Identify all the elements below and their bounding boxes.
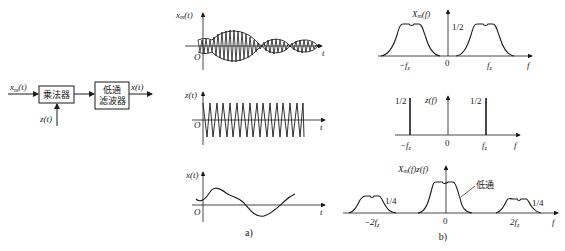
tick-zero: 0 (443, 216, 448, 226)
tick-neg-fz: −fz (399, 60, 411, 71)
caption-b: b) (439, 231, 447, 243)
multiplier-label: 乘法器 (43, 89, 70, 100)
x-label: t (322, 48, 325, 58)
output-label: x(t) (130, 82, 144, 92)
tick-neg-2fz: −2fz (364, 217, 380, 228)
caption-a: a) (245, 227, 253, 239)
plot-z-f: z(f) 1/2 1/2 −fz 0 fz f (395, 95, 520, 151)
y-label: xm(t) (175, 10, 193, 20)
x-label: f (514, 140, 518, 150)
tick-neg-fz: −fz (400, 140, 412, 151)
origin-label: O (194, 52, 201, 62)
y-label: z(t) (184, 90, 197, 100)
impulse-left-label: 1/2 (395, 96, 407, 106)
side-level-right: 1/4 (532, 198, 544, 208)
plot-xm-t: xm(t) O t (175, 10, 325, 70)
carrier-label: z(t) (39, 114, 52, 124)
y-label: z(f) (424, 95, 437, 105)
filter-label-line2: 滤波器 (99, 95, 126, 106)
origin-label: O (194, 120, 201, 130)
plot-x-t: x(t) O t a) (185, 170, 325, 239)
x-label: t (320, 207, 323, 217)
x-label: f (527, 60, 531, 70)
plot-z-t: z(t) O t (184, 90, 325, 145)
tick-pos-2fz: 2fz (510, 217, 520, 228)
plot-Xm-f: Xm(f) 1/2 −fz 0 fz f (378, 9, 532, 71)
filter-label-line1: 低通 (103, 84, 121, 95)
origin-label: O (194, 207, 201, 217)
tick-pos-fz: fz (482, 140, 488, 151)
modulation-diagram: xm(t) 乘法器 z(t) 低通 滤波器 x(t) xm(t) O t z(t… (0, 0, 565, 251)
block-diagram: xm(t) 乘法器 z(t) 低通 滤波器 x(t) (8, 82, 152, 126)
level-label: 1/2 (452, 22, 464, 32)
tick-pos-fz: fz (487, 60, 493, 71)
y-label: Xm(f) (411, 9, 430, 19)
lowpass-leader (461, 186, 475, 197)
impulse-right-label: 1/2 (470, 96, 482, 106)
side-level-left: 1/4 (385, 196, 397, 206)
x-label: t (320, 122, 323, 132)
lowpass-label: 低通 (476, 179, 494, 190)
x-label: f (552, 217, 556, 227)
tick-zero: 0 (445, 58, 450, 68)
y-label: x(t) (185, 170, 199, 180)
y-label: Xm(f)z(f) (397, 164, 428, 174)
plot-Xmz-f: Xm(f)z(f) 1/4 低通 1/4 −2fz 0 2fz f b) (343, 164, 558, 243)
tick-zero: 0 (445, 138, 450, 148)
input-label: xm(t) (9, 82, 27, 93)
